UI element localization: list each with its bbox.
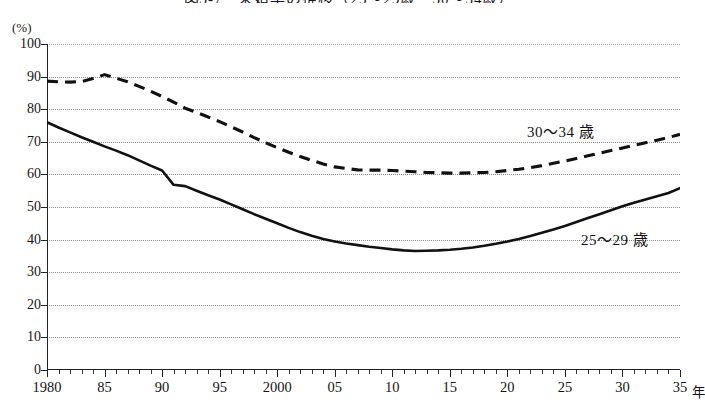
x-axis-tick-minor [542,370,543,374]
x-axis-tick-label: 25 [558,379,573,396]
x-axis-tick-minor [461,370,462,374]
x-axis-tick-major [622,370,623,377]
x-axis-tick-minor [576,370,577,374]
x-axis-tick-minor [174,370,175,374]
y-axis-tick-label: 80 [7,101,41,117]
x-axis-tick-minor [473,370,474,374]
x-axis-tick-label: 95 [212,379,227,396]
y-axis-tick-label: 50 [7,199,41,215]
x-axis-tick-minor [197,370,198,374]
x-axis-tick-minor [588,370,589,374]
x-axis-tick-minor [254,370,255,374]
x-axis-tick-minor [404,370,405,374]
x-axis-tick-label: 85 [97,379,112,396]
x-axis-tick-minor [530,370,531,374]
x-axis-tick-minor [93,370,94,374]
y-axis-tick-label: 20 [7,296,41,312]
x-axis-tick-minor [599,370,600,374]
x-axis-tick-label: 10 [385,379,400,396]
x-axis-tick-minor [381,370,382,374]
x-axis-tick-minor [438,370,439,374]
x-axis-tick-minor [323,370,324,374]
y-axis-labels: 0102030405060708090100 [0,44,41,370]
x-axis-tick-major [162,370,163,377]
y-axis-tick-label: 40 [7,231,41,247]
x-axis-tick-major [335,370,336,377]
series-canvas [47,44,680,370]
y-axis-tick-label: 0 [7,362,41,378]
x-axis-tick-minor [289,370,290,374]
x-axis-tick-label: 20 [500,379,515,396]
x-axis-tick-minor [312,370,313,374]
x-axis-tick-minor [668,370,669,374]
x-axis-tick-minor [59,370,60,374]
x-axis-tick-label: 15 [443,379,458,396]
x-axis-tick-minor [266,370,267,374]
y-axis-tick-label: 90 [7,68,41,84]
x-axis-tick-minor [139,370,140,374]
x-axis-tick-label: 30 [615,379,630,396]
x-axis-tick-minor [346,370,347,374]
x-axis-tick-minor [116,370,117,374]
x-axis-tick-minor [358,370,359,374]
x-axis-tick-major [277,370,278,377]
x-axis-tick-minor [128,370,129,374]
chart-title: 図3-7 未婚率の推移（25〜29歳・30〜34歳） [0,0,698,3]
x-axis-tick-minor [634,370,635,374]
x-axis-tick-minor [243,370,244,374]
x-axis-tick-minor [645,370,646,374]
x-axis-tick-minor [70,370,71,374]
x-axis-tick-minor [484,370,485,374]
x-axis-ticks [47,370,680,378]
x-axis-tick-minor [82,370,83,374]
x-axis-tick-minor [185,370,186,374]
x-axis-tick-label: 2000 [263,379,292,396]
x-axis-tick-minor [208,370,209,374]
y-axis-tick-label: 100 [7,36,41,52]
y-axis-unit-label: (%) [12,20,32,36]
x-axis-tick-minor [427,370,428,374]
y-axis-tick-label: 60 [7,166,41,182]
x-axis-tick-minor [519,370,520,374]
x-axis-tick-minor [415,370,416,374]
x-axis-tick-major [680,370,681,377]
x-axis-tick-major [507,370,508,377]
x-axis-tick-major [220,370,221,377]
x-axis-tick-minor [151,370,152,374]
x-axis-tick-label: 90 [155,379,170,396]
x-axis-tick-label: 35 [673,379,688,396]
x-axis-tick-minor [553,370,554,374]
x-axis-tick-major [565,370,566,377]
x-axis-tick-major [450,370,451,377]
x-axis-tick-major [392,370,393,377]
x-axis-tick-minor [369,370,370,374]
y-axis-tick-label: 70 [7,133,41,149]
x-axis-tick-major [105,370,106,377]
x-axis-tick-minor [496,370,497,374]
x-axis-tick-minor [611,370,612,374]
plot-area: 30〜34 歳 25〜29 歳 [47,44,680,370]
x-axis-tick-major [47,370,48,377]
x-axis-tick-minor [657,370,658,374]
series-label-30-34: 30〜34 歳 [527,120,594,141]
x-axis-tick-label: 05 [327,379,342,396]
y-axis-tick-label: 10 [7,329,41,345]
x-axis-tick-minor [231,370,232,374]
series-label-25-29: 25〜29 歳 [581,228,648,249]
x-axis-tick-label: 1980 [33,379,62,396]
x-axis-unit-label: 年 [692,381,705,401]
y-axis-tick-label: 30 [7,264,41,280]
x-axis-tick-minor [300,370,301,374]
x-axis-labels: 年 1980859095200005101520253035 [0,379,698,401]
